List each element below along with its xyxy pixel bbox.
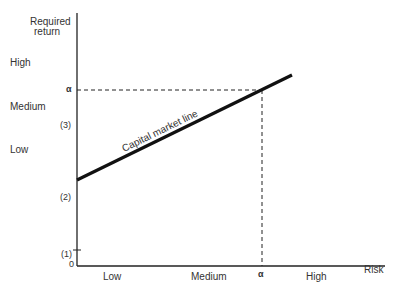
x-axis-title: Risk [364,264,383,275]
x-label-high: High [306,271,327,282]
capital-market-line-diagram: Capital market line [0,0,395,287]
y-label-low: Low [10,144,28,155]
y-label-3: (3) [60,120,71,131]
y-label-high: High [10,57,31,68]
y-label-medium: Medium [10,101,46,112]
y-axis-title-line2: return [34,26,60,37]
capital-market-line-label: Capital market line [120,107,200,153]
y-label-alpha: α [66,84,72,95]
x-label-low: Low [103,271,121,282]
y-label-2: (2) [60,192,71,203]
x-label-medium: Medium [191,271,227,282]
x-label-alpha: α [258,269,264,280]
y-label-0: 0 [69,259,74,270]
capital-market-line [77,75,292,180]
